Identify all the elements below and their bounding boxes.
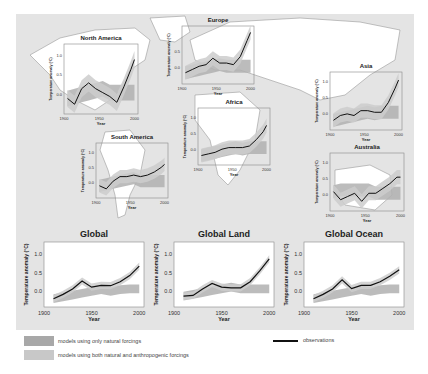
legend-label-anthro: models using both natural and anthropoge…	[58, 352, 189, 358]
legend-swatch-natural	[24, 336, 54, 346]
legend-label-natural: models using only natural forcings	[58, 338, 141, 344]
legend-swatch-anthro	[24, 350, 54, 360]
legend: models using only natural forcings model…	[0, 0, 428, 374]
legend-label-observations: observations	[303, 337, 334, 343]
legend-line-observations	[273, 340, 298, 342]
